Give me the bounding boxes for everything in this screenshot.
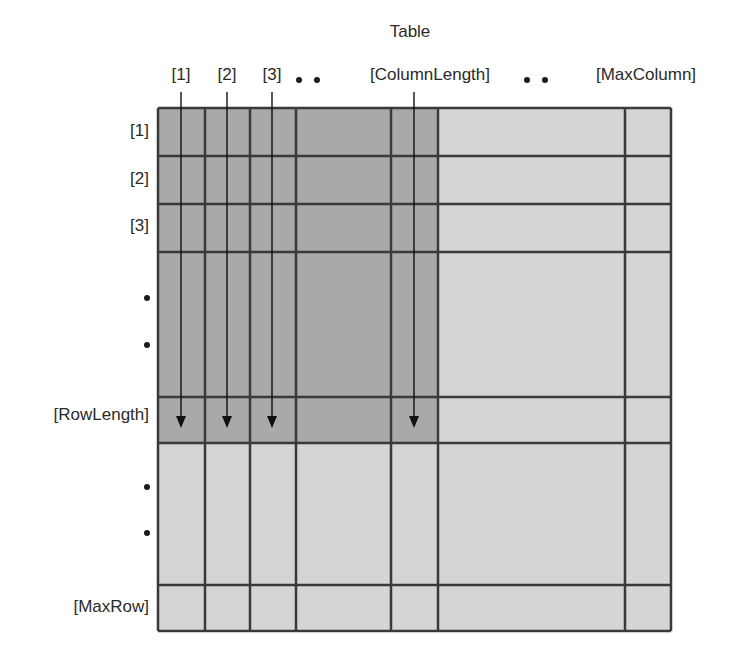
used-region: [158, 108, 438, 443]
table-grid: [0, 0, 740, 663]
